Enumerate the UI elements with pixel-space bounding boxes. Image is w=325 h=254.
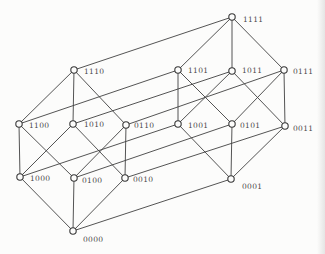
- node-1011: [229, 68, 235, 74]
- edge-1110-0110: [74, 70, 126, 125]
- node-label-1111: 1111: [243, 15, 263, 24]
- edge-0101-0001: [231, 124, 232, 179]
- node-label-0011: 0011: [293, 124, 313, 133]
- node-0001: [228, 176, 234, 182]
- figure-canvas: 1111111011011011011111001010011010010101…: [0, 0, 325, 254]
- node-label-0100: 0100: [82, 176, 102, 185]
- hypercube-graph: 1111111011011011011111001010011010010101…: [0, 0, 325, 254]
- node-0110: [123, 122, 129, 128]
- node-1100: [16, 121, 22, 127]
- node-0101: [229, 121, 235, 127]
- edge-1001-0001: [178, 124, 231, 179]
- edge-0111-0110: [126, 70, 284, 125]
- edge-0110-0010: [125, 125, 126, 178]
- node-0010: [122, 175, 128, 181]
- edge-0111-0011: [284, 70, 285, 126]
- node-0000: [70, 228, 76, 234]
- edge-1110-1100: [19, 70, 74, 124]
- node-label-0101: 0101: [240, 121, 260, 130]
- node-label-1010: 1010: [84, 120, 104, 129]
- node-label-1101: 1101: [188, 66, 208, 75]
- node-label-0000: 0000: [83, 235, 103, 244]
- node-label-0111: 0111: [293, 67, 313, 76]
- edge-1100-1000: [19, 124, 20, 177]
- edge-0100-0000: [73, 178, 74, 231]
- edge-1000-0000: [20, 177, 73, 231]
- edge-1111-0111: [232, 17, 284, 70]
- node-1010: [70, 121, 76, 127]
- node-label-1000: 1000: [30, 174, 50, 183]
- edge-0011-0001: [231, 126, 285, 179]
- edge-0010-0000: [73, 178, 125, 231]
- node-label-1001: 1001: [188, 121, 208, 130]
- node-1111: [229, 14, 235, 20]
- node-label-1011: 1011: [242, 66, 262, 75]
- edge-1111-1101: [178, 17, 232, 70]
- node-1110: [71, 67, 77, 73]
- node-label-1100: 1100: [29, 121, 49, 130]
- node-label-0010: 0010: [133, 175, 153, 184]
- node-label-0001: 0001: [242, 182, 262, 191]
- edge-0111-0101: [232, 70, 284, 124]
- node-1001: [175, 121, 181, 127]
- node-0100: [71, 175, 77, 181]
- edge-0001-0000: [73, 179, 231, 231]
- node-label-0110: 0110: [134, 121, 154, 130]
- edge-1110-1010: [73, 70, 74, 124]
- node-1101: [175, 67, 181, 73]
- node-0011: [282, 123, 288, 129]
- node-1000: [17, 174, 23, 180]
- edge-1111-1110: [74, 17, 232, 70]
- node-0111: [281, 67, 287, 73]
- node-label-1110: 1110: [84, 67, 104, 76]
